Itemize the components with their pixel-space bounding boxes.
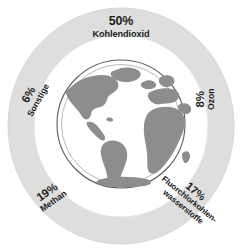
- greenhouse-gas-donut-chart: 50% Kohlendioxid 8% Ozon 6% Sonstige 19%…: [0, 0, 242, 252]
- slice-name-ozon: Ozon: [207, 71, 217, 127]
- slice-percent-kohlendioxid: 50%: [61, 14, 181, 28]
- slice-label-ozon: 8% Ozon: [194, 71, 217, 127]
- slice-label-kohlendioxid: 50% Kohlendioxid: [61, 14, 181, 39]
- slice-name-kohlendioxid: Kohlendioxid: [61, 29, 181, 39]
- slice-percent-ozon: 8%: [194, 71, 207, 127]
